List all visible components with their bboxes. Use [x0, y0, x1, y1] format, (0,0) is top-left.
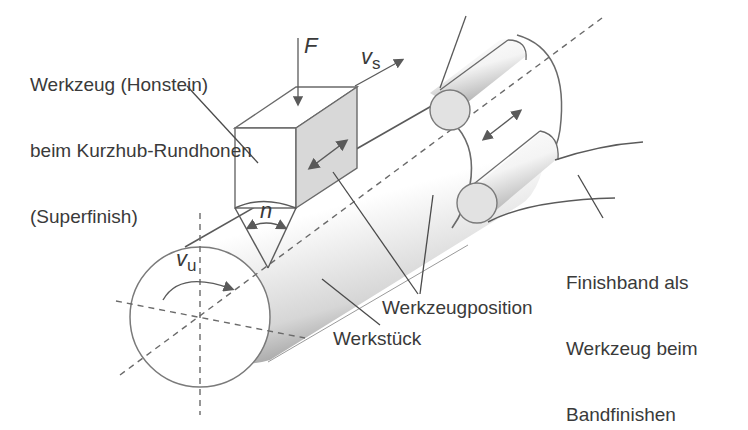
diagram-canvas: Werkzeug (Honstein) beim Kurzhub-Rundhon… — [0, 0, 748, 430]
stroke-velocity-subscript: s — [372, 54, 381, 73]
stroke-velocity-symbol: vs — [361, 44, 381, 70]
stroke-velocity-v: v — [361, 44, 372, 69]
force-symbol: F — [304, 33, 317, 59]
finishing-band-label-line2: Werkzeug beim — [566, 338, 698, 360]
tool-position-label: Werkzeugposition — [382, 297, 533, 319]
circumferential-velocity-v: v — [176, 246, 187, 271]
circumferential-velocity-subscript: u — [187, 256, 196, 275]
workpiece-label: Werkstück — [333, 328, 421, 350]
honing-tool-label: Werkzeug (Honstein) beim Kurzhub-Rundhon… — [30, 30, 252, 272]
honing-tool-label-line2: beim Kurzhub-Rundhonen — [30, 140, 252, 162]
finishing-band-label-line1: Finishband als — [566, 272, 698, 294]
angle-symbol: n — [260, 198, 272, 224]
finishing-band-label: Finishband als Werkzeug beim Bandfinishe… — [566, 228, 698, 430]
finishing-band-label-line3: Bandfinishen — [566, 404, 698, 426]
circumferential-velocity-symbol: vu — [176, 246, 196, 272]
honing-tool-label-line3: (Superfinish) — [30, 206, 252, 228]
honing-tool-label-line1: Werkzeug (Honstein) — [30, 74, 252, 96]
